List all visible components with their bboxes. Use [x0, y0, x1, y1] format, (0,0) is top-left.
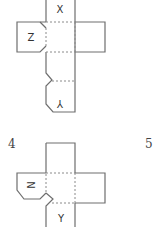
- face-label-bottom: Y: [57, 213, 65, 224]
- option-number-5: 5: [145, 137, 153, 151]
- net-top: X Z Y: [17, 0, 105, 112]
- face-label-bottom: Y: [56, 98, 64, 109]
- face-label-left: N: [25, 181, 36, 188]
- cube-nets-diagram: X Z Y N Y 4 5: [0, 0, 157, 227]
- option-number-4: 4: [8, 137, 16, 151]
- net-option-4: N Y: [17, 143, 105, 227]
- face-label-top: X: [57, 4, 64, 15]
- face-label-left: Z: [28, 32, 35, 43]
